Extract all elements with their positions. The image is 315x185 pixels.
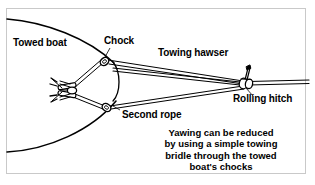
label-towed-boat: Towed boat [13,38,67,49]
label-towing-hawser: Towing hawser [158,48,228,59]
lower-rope-to-cleat [73,94,105,109]
towing-bridle-diagram: Towed boat Chock Towing hawser Rolling h… [0,0,315,185]
lower-chock [101,102,113,113]
label-rolling-hitch: Rolling hitch [233,94,292,105]
lower-bridle-leg [110,86,244,109]
caption-line-2: by using a simple towing [140,138,302,149]
caption-line-1: Yawing can be reduced [140,127,302,138]
figure-caption: Yawing can be reduced by using a simple … [140,127,302,173]
caption-line-4: boat's chocks [140,161,302,172]
caption-line-3: bridle through the towed [140,150,302,161]
rolling-hitch-knot [238,65,253,90]
upper-rope-to-cleat [72,60,103,88]
label-second-rope: Second rope [122,110,181,121]
towing-hawser [249,80,309,85]
leader-chock [105,48,110,57]
label-chock: Chock [104,36,134,47]
deck-cleat [50,78,77,102]
